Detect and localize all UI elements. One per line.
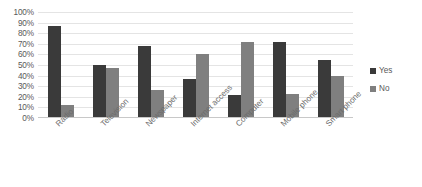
y-axis-tick-label: 10% xyxy=(18,103,34,112)
x-axis-label-slot: Radio xyxy=(38,119,83,187)
legend-entry: No xyxy=(370,84,420,93)
bar-yes xyxy=(318,60,331,118)
x-axis-label-slot: Mobile phone xyxy=(263,119,308,187)
y-axis-tick-label: 30% xyxy=(18,82,34,91)
y-axis-tick-label: 100% xyxy=(13,8,34,17)
y-axis-tick-label: 70% xyxy=(18,39,34,48)
y-axis-tick-label: 90% xyxy=(18,18,34,27)
bar-yes xyxy=(273,42,286,118)
bar-chart: 100%90%80%70%60%50%40%30%20%10%0% RadioT… xyxy=(0,0,422,187)
x-axis-label-slot: Television xyxy=(83,119,128,187)
y-axis-tick-label: 60% xyxy=(18,50,34,59)
bar-yes xyxy=(138,46,151,118)
legend-label: Yes xyxy=(379,66,392,75)
chart-legend: YesNo xyxy=(370,66,420,102)
x-axis-label-slot: Newspaper xyxy=(128,119,173,187)
y-axis: 100%90%80%70%60%50%40%30%20%10%0% xyxy=(0,7,36,119)
legend-entry: Yes xyxy=(370,66,420,75)
y-axis-tick-label: 20% xyxy=(18,92,34,101)
y-axis-tick-label: 40% xyxy=(18,71,34,80)
bar-group xyxy=(38,12,83,118)
x-axis-labels: RadioTelevisionNewspaperInternet accessC… xyxy=(38,119,353,187)
bar-yes xyxy=(183,79,196,118)
y-axis-tick-label: 80% xyxy=(18,29,34,38)
legend-swatch-icon xyxy=(370,68,376,74)
bar-yes xyxy=(228,95,241,118)
bar-yes xyxy=(48,26,61,118)
y-axis-tick-label: 50% xyxy=(18,61,34,70)
legend-label: No xyxy=(379,84,389,93)
x-axis-label-slot: Smart phone xyxy=(308,119,353,187)
x-axis-label-slot: Computer xyxy=(218,119,263,187)
x-axis-label-slot: Internet access xyxy=(173,119,218,187)
legend-swatch-icon xyxy=(370,86,376,92)
bar-yes xyxy=(93,65,106,118)
y-axis-tick-label: 0% xyxy=(22,114,34,123)
